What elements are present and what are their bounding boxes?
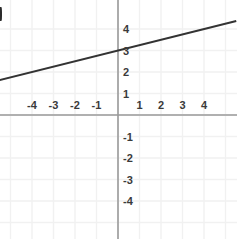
x-tick-label: -3	[49, 100, 59, 111]
x-tick-label: -1	[92, 100, 102, 111]
x-tick-label: 2	[158, 100, 164, 111]
x-tick-label: 4	[201, 100, 207, 111]
plot-canvas	[0, 0, 237, 239]
x-tick-label: 3	[179, 100, 185, 111]
y-tick-label: 1	[123, 88, 129, 99]
x-tick-label: -2	[70, 100, 80, 111]
x-tick-label: 1	[136, 100, 142, 111]
y-tick-label: -4	[123, 196, 133, 207]
y-tick-label: -2	[123, 153, 133, 164]
y-tick-label: 4	[123, 24, 129, 35]
x-tick-label: -4	[27, 100, 37, 111]
y-tick-label: -1	[123, 131, 133, 142]
coordinate-plane-graph: -4-3-2-11234 4321-1-2-3-4	[0, 0, 237, 239]
y-tick-label: -3	[123, 174, 133, 185]
y-tick-label: 3	[123, 45, 129, 56]
y-tick-label: 2	[123, 67, 129, 78]
